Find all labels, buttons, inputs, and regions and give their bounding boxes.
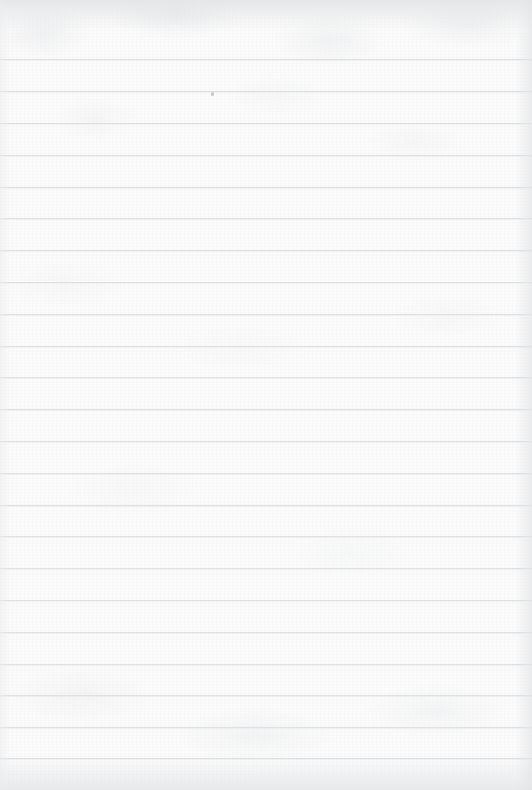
writing-line-row[interactable] xyxy=(0,123,532,155)
writing-line-row[interactable] xyxy=(0,727,532,758)
writing-line-row[interactable] xyxy=(0,59,532,91)
writing-line-row[interactable] xyxy=(0,218,532,250)
writing-line-row[interactable] xyxy=(0,250,532,282)
ruled-lines-group xyxy=(0,0,532,790)
writing-line-row[interactable] xyxy=(0,473,532,505)
writing-line-row[interactable] xyxy=(0,409,532,441)
writing-line-row[interactable] xyxy=(0,314,532,346)
notebook-page xyxy=(0,0,532,790)
writing-line-row[interactable] xyxy=(0,377,532,409)
writing-line-row[interactable] xyxy=(0,187,532,218)
writing-line-row[interactable] xyxy=(0,536,532,568)
writing-line-row[interactable] xyxy=(0,632,532,664)
rule-line xyxy=(0,758,532,759)
speck-1-icon xyxy=(211,92,214,96)
writing-line-row[interactable] xyxy=(0,568,532,600)
writing-line-row[interactable] xyxy=(0,27,532,59)
writing-line-row[interactable] xyxy=(0,664,532,695)
writing-line-row[interactable] xyxy=(0,91,532,123)
writing-line-row[interactable] xyxy=(0,505,532,536)
writing-line-row[interactable] xyxy=(0,155,532,187)
writing-line-row[interactable] xyxy=(0,282,532,314)
writing-line-row[interactable] xyxy=(0,346,532,377)
writing-line-row[interactable] xyxy=(0,695,532,727)
writing-line-row[interactable] xyxy=(0,600,532,632)
writing-line-row[interactable] xyxy=(0,441,532,473)
